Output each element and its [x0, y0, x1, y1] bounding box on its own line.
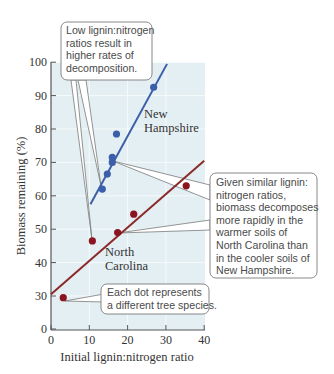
callout-text-line: Low lignin:nitrogen — [66, 24, 154, 36]
y-tick-label: 30 — [35, 289, 47, 303]
callout-low-ratio: Low lignin:nitrogenratios result inhighe… — [61, 22, 154, 80]
callout-each-dot: Each dot representsa different tree spec… — [101, 284, 217, 314]
callout-text-line: New Hampshire. — [216, 264, 294, 276]
callout-text-line: ratios result in — [66, 37, 132, 49]
x-tick-label: 10 — [83, 333, 95, 347]
callout-text-line: a different tree species. — [107, 299, 217, 311]
data-point-new-hampshire — [109, 154, 116, 161]
x-tick-label: 30 — [160, 333, 172, 347]
callout-text-line: Each dot represents — [107, 286, 202, 298]
y-tick-label: 60 — [35, 189, 47, 203]
y-tick-label: 80 — [35, 122, 47, 136]
callout-text-line: Given similar lignin: — [216, 176, 308, 188]
callout-text-line: higher rates of — [66, 49, 134, 61]
data-point-north-carolina — [89, 237, 96, 244]
data-point-north-carolina — [114, 229, 121, 236]
y-axis-title: Biomass remaining (%) — [14, 137, 28, 256]
x-tick-label: 20 — [122, 333, 134, 347]
callout-text-line: warmer soils of — [215, 226, 287, 238]
callout-text-line: biomass decomposes — [216, 201, 318, 213]
y-tick-label: 70 — [35, 155, 47, 169]
data-point-new-hampshire — [150, 84, 157, 91]
data-point-new-hampshire — [104, 170, 111, 177]
x-tick-label: 40 — [198, 333, 210, 347]
chart: 030405060708090100010203040 NewHampshire… — [0, 0, 334, 374]
y-tick-label: 40 — [35, 256, 47, 270]
y-tick-label: 50 — [35, 222, 47, 236]
y-tick-label: 0 — [41, 322, 47, 336]
y-tick-label: 90 — [35, 89, 47, 103]
data-point-north-carolina — [60, 294, 67, 301]
callout-text-line: nitrogen ratios, — [216, 189, 286, 201]
data-point-north-carolina — [130, 211, 137, 218]
series-label-new-hampshire: New — [144, 107, 168, 121]
series-label-north-carolina: Carolina — [105, 259, 148, 273]
y-tick-label: 100 — [29, 55, 47, 69]
callout-text-line: in the cooler soils of — [216, 252, 310, 264]
x-tick-label: 0 — [48, 333, 54, 347]
data-point-new-hampshire — [99, 186, 106, 193]
data-point-north-carolina — [183, 182, 190, 189]
callout-text-line: North Carolina than — [216, 239, 308, 251]
data-point-new-hampshire — [113, 130, 120, 137]
callout-text-line: decomposition. — [66, 62, 137, 74]
callout-text-line: more rapidly in the — [216, 214, 303, 226]
callout-climate: Given similar lignin:nitrogen ratios,bio… — [210, 173, 318, 278]
series-label-north-carolina: North — [105, 245, 135, 259]
series-label-new-hampshire: Hampshire — [144, 121, 199, 135]
x-axis-title: Initial lignin:nitrogen ratio — [60, 350, 193, 364]
